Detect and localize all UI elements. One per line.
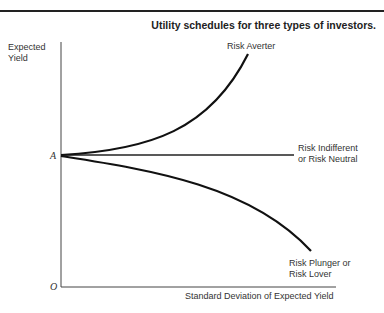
risk-lover-label-line2: Risk Lover	[289, 269, 351, 280]
risk-neutral-label-line2: or Risk Neutral	[298, 154, 358, 165]
risk-averter-label: Risk Averter	[227, 41, 275, 52]
origin-label: O	[50, 281, 57, 292]
x-axis-label: Standard Deviation of Expected Yield	[185, 291, 334, 302]
risk-lover-label-line1: Risk Plunger or	[289, 258, 351, 269]
risk-neutral-label: Risk Indifferent or Risk Neutral	[298, 143, 358, 165]
risk-lover-curve	[61, 156, 311, 251]
intercept-label: A	[50, 150, 56, 161]
risk-neutral-label-line1: Risk Indifferent	[298, 143, 358, 154]
risk-averter-curve	[61, 54, 248, 155]
risk-lover-label: Risk Plunger or Risk Lover	[289, 258, 351, 280]
